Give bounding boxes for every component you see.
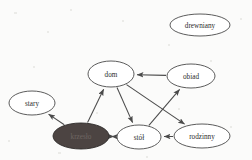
node-label-rodzinny: rodzinny: [189, 133, 215, 141]
node-label-stary: stary: [25, 100, 39, 108]
node-dom[interactable]: dom: [88, 61, 134, 87]
diagram-canvas: drewnianydomobiadstarykrzesłostółrodzinn…: [0, 0, 252, 160]
edge-krzeslo-stary: [49, 114, 65, 125]
node-rodzinny[interactable]: rodzinny: [174, 124, 230, 148]
node-label-krzeslo: krzesło: [71, 133, 92, 141]
node-layer: drewnianydomobiadstarykrzesłostółrodzinn…: [9, 14, 230, 149]
graph-svg: drewnianydomobiadstarykrzesłostółrodzinn…: [0, 0, 252, 160]
node-label-dom: dom: [105, 71, 118, 79]
node-drewniany[interactable]: drewniany: [170, 14, 230, 36]
node-label-obiad: obiad: [183, 73, 199, 81]
edge-stol-obiad: [149, 89, 180, 125]
edge-dom-stol: [117, 88, 133, 123]
node-label-drewniany: drewniany: [185, 22, 216, 30]
node-stol[interactable]: stół: [117, 125, 161, 149]
node-label-stol: stół: [134, 134, 144, 142]
node-stary[interactable]: stary: [9, 91, 55, 115]
node-krzeslo[interactable]: krzesło: [53, 123, 109, 149]
edge-krzeslo-dom: [88, 89, 104, 122]
node-obiad[interactable]: obiad: [167, 64, 215, 88]
edge-obiad-dom: [137, 75, 166, 76]
